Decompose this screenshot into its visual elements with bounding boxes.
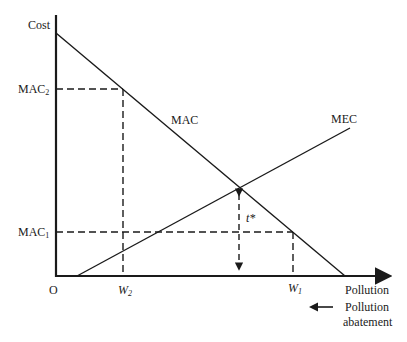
abatement-label-line2: abatement [343, 315, 393, 329]
w1-label: W1 [288, 281, 302, 296]
origin-label: O [49, 283, 58, 297]
w2-label: W2 [118, 283, 132, 298]
pollution-abatement-diagram: Cost O Pollution Pollution abatement MAC… [0, 0, 407, 342]
y-axis-label: Cost [28, 18, 51, 32]
mac-curve-label: MAC [171, 113, 198, 127]
mac2-label: MAC2 [18, 82, 49, 97]
abatement-label-line1: Pollution [345, 300, 389, 314]
mac1-label: MAC1 [18, 225, 49, 240]
tax-label: t* [246, 211, 255, 225]
mec-curve [77, 128, 350, 276]
mec-curve-label: MEC [331, 112, 357, 126]
x-axis-label: Pollution [345, 283, 389, 297]
